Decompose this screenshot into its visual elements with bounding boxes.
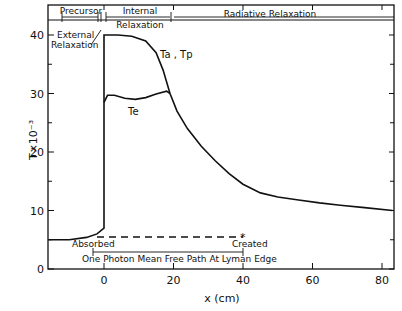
svg-text:40: 40: [236, 274, 250, 287]
svg-text:20: 20: [167, 274, 181, 287]
chart: 010203040 020406080 T×10⁻³ x (cm) Precur…: [0, 0, 402, 311]
svg-text:40: 40: [30, 29, 44, 42]
created-label: Created: [232, 239, 268, 249]
y-axis-label: T×10⁻³: [27, 120, 40, 161]
curve-ta-tp: [48, 35, 392, 240]
svg-text:10: 10: [30, 205, 44, 218]
region-label-internal-2: Relaxation: [116, 20, 163, 30]
mean-free-path-label: One Photon Mean Free Path At Lyman Edge: [82, 254, 277, 264]
plot-frame: [48, 5, 394, 269]
absorbed-label: Absorbed: [72, 239, 115, 249]
svg-text:60: 60: [306, 274, 320, 287]
curve-label-te: Te: [127, 106, 139, 117]
svg-text:0: 0: [37, 263, 44, 276]
region-label-radiative: Radiative Relaxation: [224, 9, 317, 19]
svg-text:80: 80: [375, 274, 389, 287]
svg-text:30: 30: [30, 88, 44, 101]
x-axis-label: x (cm): [204, 292, 239, 305]
svg-text:0: 0: [101, 274, 108, 287]
region-label-internal: Internal: [123, 6, 158, 16]
external-relaxation-label: External: [57, 30, 94, 40]
curve-te: [104, 91, 170, 102]
region-label-precursor: Precursor: [60, 6, 103, 16]
curve-label-ta-tp: Ta , Tp: [159, 49, 193, 60]
